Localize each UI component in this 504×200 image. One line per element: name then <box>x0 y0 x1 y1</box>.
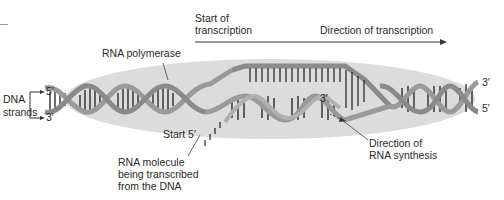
dna-label: DNA <box>3 93 25 105</box>
rna-3-prime-label: 3′ <box>320 92 328 104</box>
start-of-transcription-label-line1: Start of <box>195 12 229 24</box>
direction-of-transcription-label: Direction of transcription <box>320 24 433 36</box>
right-5-prime-label: 5′ <box>482 102 490 114</box>
bracket-arrow-bottom <box>40 116 45 120</box>
bracket-arrow-top <box>40 90 45 94</box>
direction-rna-synthesis-label-line2: RNA synthesis <box>369 149 437 161</box>
rna-molecule-label-line2: being transcribed <box>118 168 199 180</box>
direction-rna-synthesis-label-line1: Direction of <box>369 137 422 149</box>
left-5-prime-label: 5′ <box>46 85 54 97</box>
left-3-prime-label: 3′ <box>46 111 54 123</box>
transcription-arrow-head <box>440 39 447 45</box>
strands-label: strands <box>3 106 37 118</box>
start-of-transcription-label-line2: transcription <box>195 24 252 36</box>
rna-molecule-label-line3: from the DNA <box>118 180 182 192</box>
start-5-prime-label: Start 5′ <box>163 128 196 140</box>
rna-polymerase-label: RNA polymerase <box>102 47 181 59</box>
right-3-prime-label: 3′ <box>482 76 490 88</box>
rna-molecule-label-line1: RNA molecule <box>118 156 185 168</box>
